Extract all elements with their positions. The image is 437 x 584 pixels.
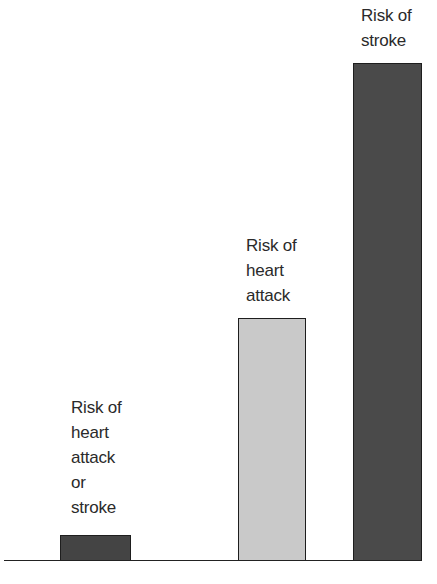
- bar-heart-attack-or-stroke: [60, 535, 131, 561]
- x-axis-baseline: [4, 560, 422, 561]
- bar-label-stroke: Risk of stroke: [361, 3, 412, 53]
- bar-stroke: [353, 63, 422, 561]
- bar-label-heart-attack: Risk of heart attack: [246, 233, 297, 308]
- bar-label-heart-attack-or-stroke: Risk of heart attack or stroke: [71, 395, 122, 520]
- bar-heart-attack: [238, 318, 306, 561]
